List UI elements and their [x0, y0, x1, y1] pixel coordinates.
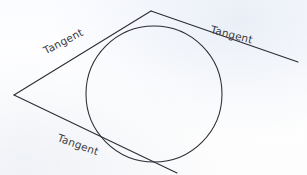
tangent-circle-diagram — [0, 0, 307, 175]
figure-canvas: Tangent Tangent Tangent — [0, 0, 307, 175]
circle-shape — [86, 26, 222, 162]
upper-left-tangent-line — [14, 11, 151, 95]
bottom-tangent-line — [14, 95, 177, 173]
